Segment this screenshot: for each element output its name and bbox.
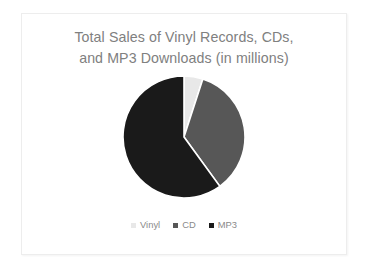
chart-legend: Vinyl CD MP3 xyxy=(22,220,346,230)
chart-title-line-1: Total Sales of Vinyl Records, CDs, xyxy=(22,27,346,48)
legend-swatch-vinyl-icon xyxy=(131,223,136,228)
legend-swatch-cd-icon xyxy=(173,223,178,228)
chart-title: Total Sales of Vinyl Records, CDs, and M… xyxy=(22,27,346,69)
legend-item-cd[interactable]: CD xyxy=(173,220,196,230)
legend-label-cd: CD xyxy=(182,220,196,230)
pie-chart-area xyxy=(22,74,346,204)
legend-swatch-mp3-icon xyxy=(209,223,214,228)
slide-card: Total Sales of Vinyl Records, CDs, and M… xyxy=(21,13,347,255)
legend-item-mp3[interactable]: MP3 xyxy=(209,220,237,230)
legend-item-vinyl[interactable]: Vinyl xyxy=(131,220,160,230)
pie-slice-group xyxy=(123,76,245,198)
chart-title-line-2: and MP3 Downloads (in millions) xyxy=(22,48,346,69)
legend-label-vinyl: Vinyl xyxy=(140,220,160,230)
pie-chart-svg xyxy=(121,74,247,200)
legend-label-mp3: MP3 xyxy=(218,220,237,230)
